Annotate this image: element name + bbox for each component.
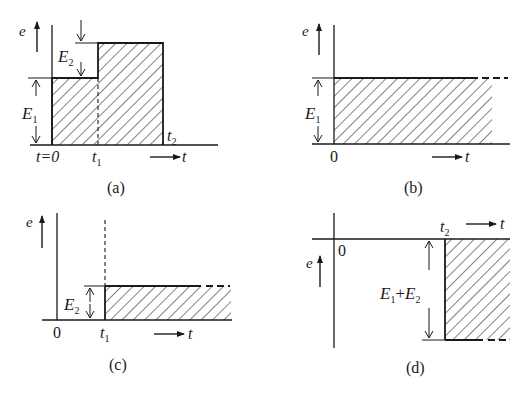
x-axis-label: t xyxy=(182,148,187,165)
e2-label: E2 xyxy=(63,295,79,316)
pulse-region-e1-e2 xyxy=(98,43,163,145)
step-function-figure: E1 E2 e t=0 t1 t2 t (a) E1 e 0 t (b) xyxy=(0,0,527,403)
panel-b: E1 e 0 t (b) xyxy=(302,23,510,197)
x-axis-label: t xyxy=(500,215,505,232)
y-axis-label: e xyxy=(19,23,26,39)
y-axis-label: e xyxy=(26,214,33,230)
x-axis-label: t xyxy=(465,148,470,165)
step-region-e1 xyxy=(334,78,492,144)
pulse-region-e1 xyxy=(52,78,98,145)
y-axis-label: e xyxy=(306,255,313,271)
y-axis-label: e xyxy=(302,23,309,39)
e1-label: E1 xyxy=(304,104,320,125)
origin-label: 0 xyxy=(53,324,61,341)
e1-plus-e2-label: E1+E2 xyxy=(379,284,420,305)
panel-d: E1+E2 e 0 t2 t (d) xyxy=(306,213,510,377)
x-axis-label: t xyxy=(188,325,193,342)
e1-label: E1 xyxy=(21,104,37,125)
caption-c: (c) xyxy=(109,356,127,374)
origin-label: t=0 xyxy=(36,148,59,165)
t2-label: t2 xyxy=(440,218,449,238)
caption-a: (a) xyxy=(107,179,125,197)
caption-b: (b) xyxy=(404,179,423,197)
t2-label: t2 xyxy=(167,127,176,147)
t1-label: t1 xyxy=(92,148,101,168)
t1-label: t1 xyxy=(100,324,109,344)
origin-label: 0 xyxy=(330,148,338,165)
caption-d: (d) xyxy=(406,359,425,377)
negative-step-region xyxy=(445,239,510,340)
panel-a: E1 E2 e t=0 t1 t2 t (a) xyxy=(19,20,218,197)
step-region-e2 xyxy=(105,286,231,320)
origin-label: 0 xyxy=(338,242,346,259)
e2-label: E2 xyxy=(57,47,73,68)
panel-c: E2 e 0 t1 t (c) xyxy=(26,213,232,374)
